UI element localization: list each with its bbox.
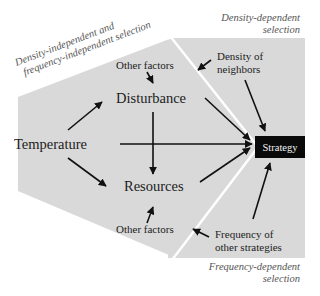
frequency-line1: Frequency of <box>215 228 282 241</box>
node-other-factors-top: Other factors <box>116 60 174 71</box>
node-other-factors-bottom: Other factors <box>116 224 174 235</box>
node-frequency-of-other-strategies: Frequency of other strategies <box>215 228 282 254</box>
density-line1: Density of <box>217 50 263 63</box>
selection-diagram: Density-independent and frequency-indepe… <box>0 0 320 296</box>
node-strategy: Strategy <box>255 136 305 158</box>
frequency-dependent-line1: Frequency-dependent <box>209 261 300 273</box>
node-temperature: Temperature <box>14 137 87 152</box>
density-dependent-line1: Density-dependent <box>221 12 300 24</box>
node-resources: Resources <box>124 179 184 194</box>
density-line2: neighbors <box>217 63 263 76</box>
node-disturbance: Disturbance <box>116 91 186 106</box>
frequency-dependent-label: Frequency-dependent selection <box>209 261 300 285</box>
density-dependent-label: Density-dependent selection <box>221 12 300 36</box>
strategy-label: Strategy <box>263 142 298 153</box>
frequency-dependent-line2: selection <box>209 273 300 285</box>
node-density-of-neighbors: Density of neighbors <box>217 50 263 76</box>
frequency-line2: other strategies <box>215 241 282 254</box>
density-dependent-line2: selection <box>221 24 300 36</box>
